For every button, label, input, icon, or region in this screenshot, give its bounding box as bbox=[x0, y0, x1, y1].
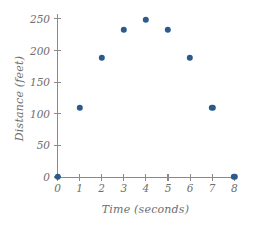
x-tick-mark bbox=[190, 174, 191, 181]
data-point bbox=[231, 174, 237, 180]
scatter-chart: 050100150200250 012345678 Distance (feet… bbox=[0, 0, 261, 227]
data-point bbox=[121, 26, 127, 32]
data-point bbox=[76, 105, 82, 111]
y-axis-line bbox=[57, 14, 58, 178]
y-tick-mark bbox=[54, 113, 61, 114]
data-point bbox=[165, 26, 171, 32]
y-tick-label: 0 bbox=[20, 172, 50, 183]
data-point bbox=[187, 55, 193, 61]
x-tick-label: 0 bbox=[49, 183, 67, 194]
x-tick-label: 4 bbox=[137, 183, 155, 194]
y-axis-title: Distance (feet) bbox=[13, 39, 26, 159]
data-point bbox=[54, 174, 60, 180]
x-tick-mark bbox=[212, 174, 213, 181]
x-tick-mark bbox=[79, 174, 80, 181]
data-point bbox=[143, 16, 149, 22]
x-tick-mark bbox=[167, 174, 168, 181]
y-tick-mark bbox=[54, 50, 61, 51]
y-tick-mark bbox=[54, 145, 61, 146]
x-axis-title: Time (seconds) bbox=[57, 203, 234, 216]
x-tick-label: 5 bbox=[159, 183, 177, 194]
y-tick-mark bbox=[54, 82, 61, 83]
y-tick-mark bbox=[54, 18, 61, 19]
x-tick-mark bbox=[145, 174, 146, 181]
x-tick-label: 1 bbox=[71, 183, 89, 194]
y-tick-label: 250 bbox=[20, 14, 50, 25]
data-point bbox=[209, 105, 215, 111]
x-tick-label: 8 bbox=[225, 183, 243, 194]
x-tick-label: 6 bbox=[181, 183, 199, 194]
x-tick-label: 2 bbox=[93, 183, 111, 194]
x-tick-label: 3 bbox=[115, 183, 133, 194]
x-tick-mark bbox=[123, 174, 124, 181]
x-tick-label: 7 bbox=[203, 183, 221, 194]
x-tick-mark bbox=[101, 174, 102, 181]
data-point bbox=[98, 55, 104, 61]
